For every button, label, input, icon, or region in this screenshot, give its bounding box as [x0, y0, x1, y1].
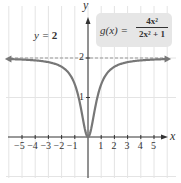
x-tick-label: −3: [40, 140, 51, 151]
function-lhs: g(x) =: [100, 24, 128, 36]
function-denominator: 2x² + 1: [136, 28, 168, 39]
x-tick-label: −1: [67, 140, 78, 151]
x-tick-label: 1: [98, 140, 103, 151]
y-axis-label: y: [83, 0, 88, 13]
function-fraction: 4x² 2x² + 1: [136, 16, 168, 39]
x-tick-label: −2: [54, 140, 65, 151]
x-tick-label: −4: [27, 140, 38, 151]
function-label-box: g(x) = 4x² 2x² + 1: [96, 13, 172, 47]
y-tick-label: 2: [79, 51, 84, 62]
x-tick-label: −5: [14, 140, 25, 151]
x-tick-label: 5: [151, 140, 156, 151]
x-tick-label: 3: [125, 140, 130, 151]
x-tick-label: 4: [138, 140, 143, 151]
function-numerator: 4x²: [136, 16, 168, 28]
x-axis-label: x: [170, 129, 175, 144]
x-tick-label: 2: [111, 140, 116, 151]
y-tick-label: 1: [79, 91, 84, 102]
asymptote-label: y = 2: [34, 29, 57, 41]
